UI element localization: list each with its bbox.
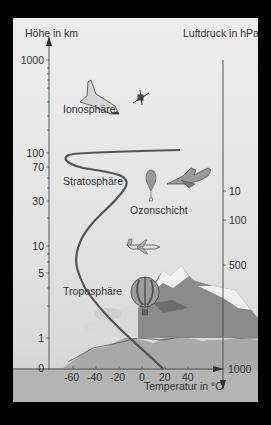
- altitude-tick: 100: [26, 148, 44, 159]
- altitude-tick: 70: [32, 162, 44, 173]
- temperature-tick: -40: [87, 372, 102, 383]
- ionosphere-label: Ionosphäre: [63, 104, 116, 115]
- pressure-tick: 10: [229, 186, 241, 197]
- weather-balloon-icon: [146, 170, 156, 201]
- temperature-tick: -20: [110, 372, 125, 383]
- airliner-icon: [127, 239, 160, 254]
- satellite-icon: [133, 90, 149, 105]
- temperature-tick: 20: [159, 372, 171, 383]
- altitude-tick: 5: [38, 268, 44, 279]
- pressure-tick: 1000: [228, 364, 251, 375]
- atmosphere-diagram: Höhe in km Luftdruck in hPa Temperatur i…: [13, 18, 258, 402]
- altitude-tick: 10: [32, 241, 44, 252]
- temperature-tick: 0: [139, 372, 145, 383]
- altitude-tick: 30: [32, 196, 44, 207]
- temperature-tick: 40: [182, 372, 194, 383]
- pressure-tick: 500: [229, 260, 247, 271]
- mountains-icon: [138, 266, 258, 338]
- altitude-axis-title: Höhe in km: [25, 28, 78, 39]
- temperature-tick: -60: [64, 372, 79, 383]
- stratosphere-label: Stratosphäre: [63, 176, 123, 187]
- altitude-tick: 0: [38, 363, 44, 374]
- troposphere-label: Troposphäre: [63, 286, 122, 297]
- pressure-tick: 100: [229, 215, 247, 226]
- altitude-tick: 1000: [21, 55, 44, 66]
- fighter-jet-icon: [167, 168, 211, 188]
- altitude-tick: 1: [38, 333, 44, 344]
- pressure-axis-title: Luftdruck in hPa: [183, 28, 258, 39]
- ozone-layer-label: Ozonschicht: [130, 205, 188, 216]
